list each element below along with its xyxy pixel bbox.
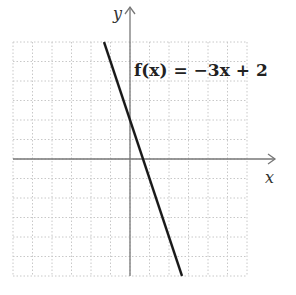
y-axis-label: y xyxy=(112,4,123,23)
function-graph: x y f(x) = −3x + 2 xyxy=(0,0,296,295)
function-label: f(x) = −3x + 2 xyxy=(134,60,268,80)
x-axis-label: x xyxy=(265,168,274,187)
